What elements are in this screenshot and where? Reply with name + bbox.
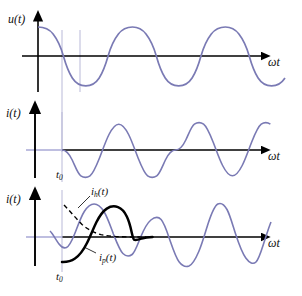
leader-line-ip bbox=[84, 247, 96, 253]
figure-root: u(t) ωt i(t) ωt t0 i(t) ωt t0 ih(t) ip(t… bbox=[0, 0, 302, 296]
y-axis-label-voltage: u(t) bbox=[8, 12, 25, 27]
y-axis-label-steady: i(t) bbox=[6, 106, 21, 121]
curve-label-ip: ip(t) bbox=[99, 251, 116, 265]
panel-total-current bbox=[26, 190, 271, 272]
panel-voltage bbox=[22, 20, 285, 152]
x-axis-label-steady: ωt bbox=[268, 149, 280, 164]
waveform-diagram bbox=[0, 0, 302, 296]
t0-label-total: t0 bbox=[56, 270, 63, 284]
x-axis-label-total: ωt bbox=[268, 236, 280, 251]
x-axis-label-voltage: ωt bbox=[268, 55, 280, 70]
curve-particular-current bbox=[50, 204, 271, 267]
y-axis-label-total: i(t) bbox=[6, 192, 21, 207]
curve-label-ih: ih(t) bbox=[91, 185, 108, 199]
t0-label-steady: t0 bbox=[56, 168, 63, 182]
